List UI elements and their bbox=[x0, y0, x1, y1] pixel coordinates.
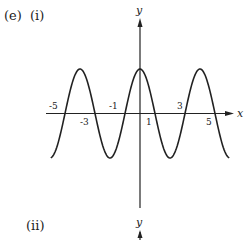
x-axis-label: x bbox=[237, 107, 244, 120]
tick-label-neg3: -3 bbox=[80, 117, 89, 127]
tick-label-neg1: -1 bbox=[109, 101, 118, 111]
y-axis-arrow-icon bbox=[138, 18, 143, 27]
y-axis-label-ii: y bbox=[135, 216, 143, 229]
y-axis-label: y bbox=[135, 4, 143, 17]
tick-label-3: 3 bbox=[177, 101, 183, 111]
x-axis-arrow-icon bbox=[225, 111, 234, 116]
tick-label-1: 1 bbox=[146, 117, 152, 127]
y-axis-ii-arrow-icon bbox=[138, 230, 143, 238]
cosine-graph: y x -5 -1 3 -3 1 5 y bbox=[0, 0, 244, 240]
tick-label-5: 5 bbox=[206, 117, 212, 127]
tick-label-neg5: -5 bbox=[49, 101, 58, 111]
